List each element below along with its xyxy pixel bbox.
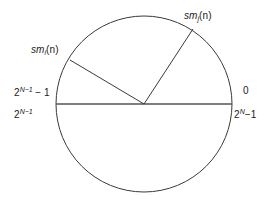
label-left-lower: 2N−1 [14,108,33,120]
label-right-lower-suffix: −1 [245,109,257,120]
label-vector-i-arg: (n) [46,44,59,55]
label-right-upper: 0 [243,86,249,96]
label-vector-i-base: sm [31,44,45,55]
label-left-upper: 2N−1− 1 [14,86,50,98]
radius-vector-i [70,60,144,104]
diagram-canvas [0,0,274,204]
label-left-upper-exponent: N−1 [20,86,33,93]
radius-vector-j [144,29,193,104]
label-vector-j: smj(n) [184,11,212,22]
label-right-upper-text: 0 [243,85,249,96]
label-vector-i: smi(n) [31,45,59,56]
modular-number-circle-figure: smj(n) smi(n) 2N−1− 1 2N−1 0 2N−1 [0,0,274,204]
label-vector-j-arg: (n) [199,10,212,21]
label-vector-j-base: sm [184,10,198,21]
label-left-lower-exponent: N−1 [20,108,33,115]
label-right-lower: 2N−1 [234,108,256,120]
label-left-upper-suffix: − 1 [35,87,49,98]
